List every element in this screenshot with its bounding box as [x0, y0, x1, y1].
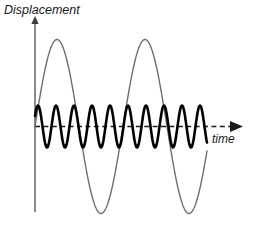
- y-axis-label: Displacement: [4, 4, 80, 17]
- right-arrow-icon: [230, 121, 243, 132]
- x-axis-label: time: [212, 133, 235, 145]
- waveform-figure: Displacement time: [0, 0, 254, 225]
- x-axis: [35, 121, 243, 132]
- up-arrow-icon: [31, 16, 38, 24]
- plot-canvas: [0, 0, 254, 225]
